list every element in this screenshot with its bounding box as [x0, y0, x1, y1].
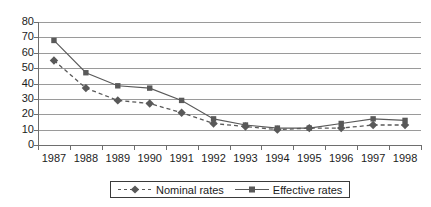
data-point-marker	[114, 96, 122, 104]
data-point-marker	[177, 109, 185, 117]
data-point-marker	[369, 121, 377, 129]
data-point-marker	[402, 118, 407, 123]
data-point-marker	[275, 125, 280, 130]
data-series-layer	[0, 0, 431, 207]
legend-marker-diamond-icon	[118, 184, 152, 195]
line-chart: 80706050403020100 1987198819891990199119…	[0, 0, 431, 207]
legend-item-nominal-rates: Nominal rates	[118, 184, 224, 196]
data-point-marker	[243, 122, 248, 127]
series-line-nominal-rates	[54, 60, 405, 129]
legend-item-effective-rates: Effective rates	[235, 184, 343, 196]
chart-legend: Nominal rates Effective rates	[110, 181, 350, 198]
data-point-marker	[115, 83, 120, 88]
legend-label-nominal-rates: Nominal rates	[156, 184, 224, 196]
data-point-marker	[339, 121, 344, 126]
data-point-marker	[146, 99, 154, 107]
data-point-marker	[50, 56, 58, 64]
data-point-marker	[83, 70, 88, 75]
data-point-marker	[307, 125, 312, 130]
data-point-marker	[51, 38, 56, 43]
data-point-marker	[211, 116, 216, 121]
data-point-marker	[179, 98, 184, 103]
data-point-marker	[147, 85, 152, 90]
legend-marker-square-icon	[235, 184, 269, 195]
data-point-marker	[370, 116, 375, 121]
series-line-effective-rates	[54, 40, 405, 128]
legend-label-effective-rates: Effective rates	[273, 184, 343, 196]
